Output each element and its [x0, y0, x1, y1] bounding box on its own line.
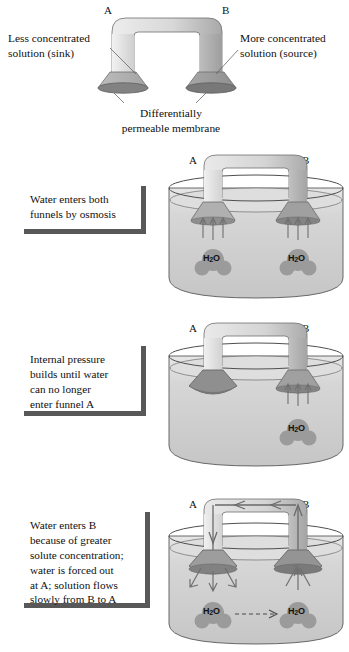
- osmosis-diagram-page: { "diagram": { "title": "Osmosis in a di…: [0, 0, 349, 652]
- h2o-label-b-panel4: H2O: [288, 606, 305, 616]
- h2o-o: O: [213, 253, 220, 263]
- leader-line-membrane-a: [114, 93, 124, 103]
- h2o-label-a-panel2: H2O: [203, 253, 220, 263]
- caption-line: because of greater: [30, 533, 142, 548]
- caption-line: enter funnel A: [30, 397, 138, 412]
- water-surface: [170, 188, 342, 212]
- caption-line: water is forced out: [30, 563, 142, 578]
- beaker-figure-panel3: [163, 320, 349, 478]
- beaker-figure-panel4: [163, 496, 349, 652]
- caption-edge-bottom: [24, 229, 146, 234]
- leader-line-membrane-b: [196, 93, 206, 103]
- caption-panel-4-text: Water enters B because of greater solute…: [24, 512, 150, 613]
- tube-leg-b: [289, 338, 307, 370]
- tube-leg-a: [204, 338, 222, 370]
- leader-lines-panel1: [0, 0, 349, 150]
- caption-panel-3: Internal pressure builds until water can…: [24, 346, 146, 416]
- water-surface: [170, 356, 342, 380]
- caption-line: Water enters both: [30, 192, 138, 207]
- caption-line: can no longer: [30, 382, 138, 397]
- panel-2-water-enters: Water enters both funnels by osmosis A B: [0, 152, 349, 310]
- caption-panel-2: Water enters both funnels by osmosis: [24, 186, 146, 234]
- caption-panel-2-text: Water enters both funnels by osmosis: [24, 186, 146, 228]
- tube-leg-a: [204, 170, 222, 202]
- h2o-label-b-panel2: H2O: [288, 253, 305, 263]
- caption-line: slowly from B to A: [30, 592, 142, 607]
- caption-line: Internal pressure: [30, 352, 138, 367]
- h2o-o: O: [213, 606, 220, 616]
- h2o-o: O: [298, 253, 305, 263]
- panel-4-flow-b-to-a: Water enters B because of greater solute…: [0, 486, 349, 652]
- panel-1-apparatus: A B Less concentrated solution (sink) Mo…: [0, 0, 349, 150]
- h2o-label-a-panel4: H2O: [203, 606, 220, 616]
- leader-line-right: [216, 50, 238, 74]
- caption-line: solute concentration;: [30, 548, 142, 563]
- leader-line-left: [110, 48, 136, 74]
- caption-line: at A; solution flows: [30, 578, 142, 593]
- water-surface: [170, 536, 342, 560]
- h2o-o: O: [298, 606, 305, 616]
- h2o-o: O: [298, 423, 305, 433]
- caption-line: Water enters B: [30, 518, 142, 533]
- caption-line: builds until water: [30, 367, 138, 382]
- tube-leg-b: [289, 170, 307, 202]
- caption-line: funnels by osmosis: [30, 207, 138, 222]
- beaker-figure-panel2: [163, 152, 349, 310]
- panel-3-pressure-builds: Internal pressure builds until water can…: [0, 318, 349, 478]
- caption-panel-3-text: Internal pressure builds until water can…: [24, 346, 146, 418]
- caption-panel-4: Water enters B because of greater solute…: [24, 512, 150, 608]
- h2o-label-b-panel3: H2O: [288, 423, 305, 433]
